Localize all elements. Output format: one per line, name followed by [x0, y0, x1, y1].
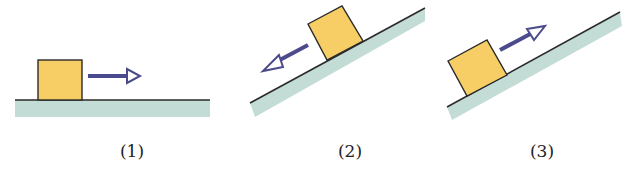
panel-1-horizontal — [15, 60, 210, 117]
arrow-right-icon — [88, 69, 140, 83]
block — [38, 60, 82, 100]
ground-surface — [15, 100, 210, 117]
panel-2-incline — [250, 6, 425, 117]
panel-1-label: (1) — [120, 141, 144, 161]
panel-2-label: (2) — [338, 141, 362, 161]
panel-3-label: (3) — [530, 141, 554, 161]
arrow-up-slope-icon — [500, 26, 545, 50]
panel-3-incline — [447, 12, 622, 120]
arrow-down-slope-icon — [263, 45, 308, 71]
diagram-stage: (1) (2) (3) — [0, 0, 635, 173]
